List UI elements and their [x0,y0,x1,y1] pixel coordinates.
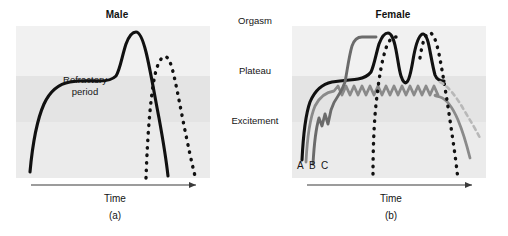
female-x-axis-label: Time [336,193,446,204]
male-time-axis [31,182,196,188]
curve-key-b: B [309,160,316,171]
phase-label-excitement: Excitement [207,115,303,126]
female-panel-caption: (b) [336,210,446,221]
female-panel-title: Female [338,9,448,20]
refractory-line-1: Refractory [63,74,107,85]
refractory-period-annotation: Refractory period [48,74,122,97]
male-band-excitement [16,122,210,178]
male-band-orgasm [16,26,210,76]
refractory-line-2: period [72,86,98,97]
curve-key-a: A [297,160,304,171]
phase-label-orgasm: Orgasm [213,15,297,26]
male-panel-title: Male [62,9,172,20]
male-panel [16,26,210,188]
female-time-axis [307,182,472,188]
curve-key-c: C [321,160,328,171]
phase-label-plateau: Plateau [213,65,297,76]
male-x-axis-label: Time [60,193,170,204]
male-panel-caption: (a) [60,210,170,221]
